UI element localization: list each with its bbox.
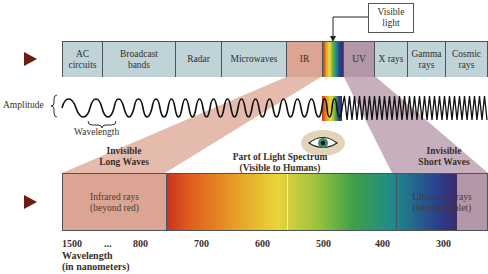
yellow-marker-line: [287, 174, 288, 230]
tick-800: 800: [133, 238, 148, 249]
ultraviolet-label: Ultraviolet rays(beyond violet): [397, 192, 487, 214]
long-waves-heading: InvisibleLong Waves: [84, 146, 164, 168]
tick-700: 700: [194, 238, 209, 249]
visible-spectrum-heading: Part of Light Spectrum(Visible to Humans…: [205, 152, 355, 174]
tick-600: 600: [255, 238, 270, 249]
tick-300: 300: [436, 238, 451, 249]
ir-divider: [166, 174, 167, 230]
short-waves-heading: InvisibleShort Waves: [406, 146, 482, 168]
axis-title: Wavelength(in nanometers): [62, 250, 130, 272]
tick-1500: 1500: [62, 238, 82, 249]
infrared-label: Infrared rays(beyond red): [64, 192, 165, 214]
tick-ellipsis: ...: [104, 238, 112, 249]
tick-400: 400: [375, 238, 390, 249]
wavelength-label: Wavelength: [74, 127, 119, 138]
tick-500: 500: [316, 238, 331, 249]
